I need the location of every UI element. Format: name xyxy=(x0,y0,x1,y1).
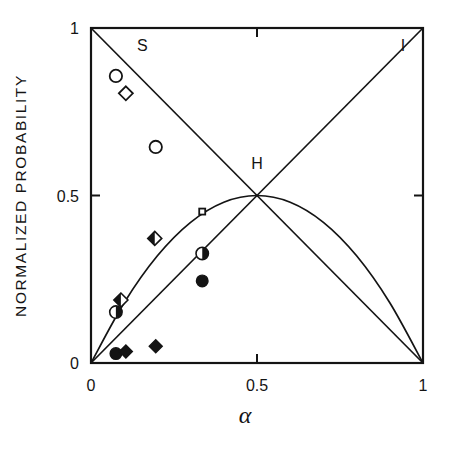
filled-diamond-marker xyxy=(149,340,162,353)
chart-figure: 00.5100.51αNORMALIZED PROBABILITYSHI xyxy=(0,0,450,455)
data-point-filled-diamond xyxy=(149,340,162,353)
half-diamond-fill xyxy=(114,293,121,307)
x-axis-title: α xyxy=(239,402,252,428)
probability-plot: 00.5100.51αNORMALIZED PROBABILITYSHI xyxy=(0,0,450,455)
open-square-marker xyxy=(199,209,205,215)
x-tick-label: 0 xyxy=(87,377,96,394)
data-point-filled-circle xyxy=(196,275,208,287)
data-point-open-circle xyxy=(150,141,162,153)
data-point-open-square xyxy=(199,209,205,215)
y-tick-label: 0 xyxy=(70,355,79,372)
data-markers xyxy=(110,70,209,360)
filled-circle-marker xyxy=(110,348,122,360)
open-diamond-marker xyxy=(119,86,133,100)
y-axis-title: NORMALIZED PROBABILITY xyxy=(12,74,29,317)
data-point-open-diamond xyxy=(119,86,133,100)
data-point-open-circle xyxy=(110,70,122,82)
curve-label-h: H xyxy=(251,155,263,172)
curve-h xyxy=(91,196,423,364)
data-point-half-diamond xyxy=(114,293,128,307)
half-diamond-fill xyxy=(148,231,155,245)
curve-label-i: I xyxy=(401,37,405,54)
x-tick-label: 1 xyxy=(419,377,428,394)
x-tick-label: 0.5 xyxy=(246,377,268,394)
data-point-half-diamond xyxy=(148,231,162,245)
y-tick-label: 1 xyxy=(70,20,79,37)
open-circle-marker xyxy=(110,70,122,82)
open-circle-marker xyxy=(150,141,162,153)
y-tick-label: 0.5 xyxy=(57,188,79,205)
curve-label-s: S xyxy=(137,37,148,54)
axis-labels: 00.5100.51αNORMALIZED PROBABILITYSHI xyxy=(12,20,428,428)
data-point-half-circle xyxy=(196,247,208,259)
curves xyxy=(91,28,423,363)
filled-circle-marker xyxy=(196,275,208,287)
data-point-filled-circle xyxy=(110,348,122,360)
data-point-half-circle xyxy=(110,306,122,318)
